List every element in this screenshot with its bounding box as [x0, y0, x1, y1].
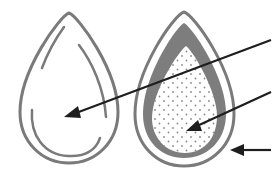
left-drop-outline — [20, 13, 118, 163]
right-drop — [135, 12, 234, 166]
arrowhead-icon — [230, 144, 244, 156]
teardrop-diagram — [0, 0, 276, 172]
left-drop — [20, 13, 118, 163]
arrow-3 — [230, 144, 271, 156]
diagram-canvas — [0, 0, 276, 172]
